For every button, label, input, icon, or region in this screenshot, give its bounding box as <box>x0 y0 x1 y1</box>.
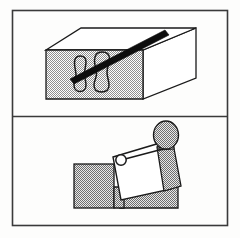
illustration-figure: Two-panel instructional illustration Iso… <box>0 0 240 238</box>
hand-knob <box>116 155 126 165</box>
desk-block <box>74 164 114 208</box>
head <box>154 121 179 149</box>
illustration-canvas <box>0 0 240 238</box>
